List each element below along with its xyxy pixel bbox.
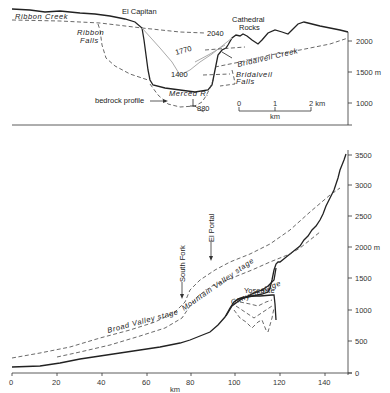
x-tick-80: 80: [186, 378, 194, 387]
y-tick-0: 0: [355, 369, 359, 378]
y-tick-2500: 2500: [355, 212, 372, 221]
arrow-head-icon: [163, 99, 168, 103]
bridalveil-falls-line: [220, 70, 235, 86]
y-tick-3000: 3000: [355, 181, 372, 190]
scale-unit: km: [270, 112, 280, 121]
arrow-head-icon: [180, 294, 184, 299]
label-cathedral-2: Rocks: [239, 23, 260, 32]
label-ribbon-creek: Ribbon Creek: [15, 12, 69, 21]
top-y-tick-2000: 2000: [356, 37, 373, 46]
y-ticks: [348, 155, 352, 373]
level-1400-line: [203, 74, 230, 75]
label-yosemite: Yosemite: [244, 286, 275, 295]
x-tick-40: 40: [97, 378, 105, 387]
figure-canvas: El Capitan Cathedral Rocks Ribbon Creek …: [0, 0, 390, 393]
label-elev-1400: 1400: [171, 70, 188, 79]
label-bedrock-profile: bedrock profile: [95, 96, 144, 105]
reconstructed-profile-2: [195, 45, 225, 62]
scale-label-2: 2 km: [309, 99, 325, 108]
top-cross-section: [12, 9, 352, 125]
yosemite-basin-3: [234, 308, 274, 332]
ribbon-falls-line: [98, 24, 148, 80]
level-1770-line: [205, 47, 245, 50]
scale-label-1: 1: [273, 99, 277, 108]
label-elev-2040: 2040: [207, 29, 224, 38]
label-el-capitan: El Capitan: [122, 7, 157, 16]
x-tick-0: 0: [9, 378, 13, 387]
label-el-portal: El Portal: [207, 213, 216, 242]
x-tick-120: 120: [273, 378, 286, 387]
label-merced-r: Merced R.: [169, 89, 209, 98]
scale-label-0: 0: [237, 99, 241, 108]
y-tick-1000: 1000: [355, 306, 372, 315]
top-y-tick-1500: 1500 m: [356, 68, 381, 77]
x-tick-60: 60: [142, 378, 150, 387]
x-ticks: [12, 373, 325, 376]
y-tick-3500: 3500: [355, 151, 372, 160]
ribbon-creek-line: [12, 20, 205, 33]
x-axis-label: km: [170, 385, 180, 393]
label-mountain-valley-stage: Mountain Valley stage: [180, 256, 256, 313]
y-tick-500: 500: [355, 337, 368, 346]
merced-marker: [190, 99, 196, 106]
x-tick-20: 20: [52, 378, 60, 387]
broad-valley-stage-line: [12, 188, 340, 358]
y-tick-1500: 1500: [355, 274, 372, 283]
x-tick-100: 100: [228, 378, 241, 387]
y-tick-2000: 2000 m: [355, 243, 380, 252]
label-elev-880: 880: [197, 104, 210, 113]
top-y-tick-1000: 1000: [356, 99, 373, 108]
yosemite-basin-2: [236, 306, 272, 318]
label-elev-1770: 1770: [174, 44, 192, 57]
label-broad-valley-stage: Broad Valley stage: [106, 307, 179, 335]
label-bridalveil-falls-2: Falls: [236, 77, 255, 86]
label-ribbon-falls-2: Falls: [80, 36, 99, 45]
label-south-fork: South Fork: [178, 245, 187, 282]
label-bridalveil-creek: Bridalveil Creek: [236, 46, 299, 69]
x-tick-140: 140: [318, 378, 331, 387]
arrow-head-icon: [209, 256, 213, 261]
cathedral-spur: [222, 52, 232, 58]
